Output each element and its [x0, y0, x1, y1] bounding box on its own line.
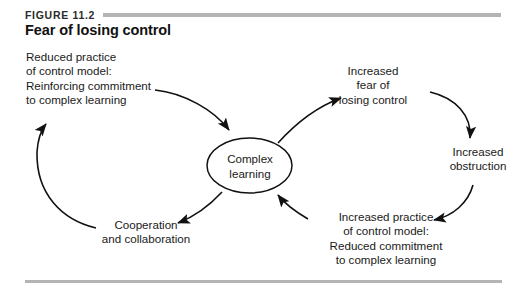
edge-increased-fear-to-increased-obstruction — [430, 92, 470, 138]
node-line: obstruction — [432, 159, 524, 173]
node-line: Reduced practice — [26, 50, 151, 64]
node-cooperation: Cooperation and collaboration — [72, 218, 220, 247]
node-line: losing control — [318, 93, 428, 107]
node-line: to complex learning — [26, 93, 151, 107]
edge-reduced-practice-to-complex-learning — [155, 90, 229, 130]
figure-number: FIGURE 11.2 — [25, 9, 95, 21]
node-reduced-practice: Reduced practice of control model: Reinf… — [26, 50, 151, 108]
figure-number-row: FIGURE 11.2 — [25, 7, 505, 23]
header-rule — [103, 13, 501, 17]
node-increased-practice: Increased practice of control model: Red… — [300, 210, 472, 268]
node-line: learning — [212, 167, 288, 182]
node-line: and collaboration — [72, 232, 220, 246]
node-complex-learning: Complex learning — [212, 152, 288, 181]
figure-container: FIGURE 11.2 Fear of losing control — [0, 0, 529, 294]
footer-rule — [25, 280, 502, 283]
node-line: Increased — [432, 145, 524, 159]
node-line: of control model: — [300, 224, 472, 238]
node-line: Reduced commitment — [300, 239, 472, 253]
node-line: Cooperation — [72, 218, 220, 232]
node-increased-obstruction: Increased obstruction — [432, 145, 524, 174]
node-line: to complex learning — [300, 253, 472, 267]
node-line: fear of — [318, 78, 428, 92]
causal-loop-diagram: Reduced practice of control model: Reinf… — [0, 44, 529, 282]
node-line: of control model: — [26, 64, 151, 78]
node-line: Increased — [318, 64, 428, 78]
node-increased-fear: Increased fear of losing control — [318, 64, 428, 107]
figure-header: FIGURE 11.2 Fear of losing control — [0, 0, 529, 44]
node-line: Complex — [212, 152, 288, 167]
figure-title: Fear of losing control — [25, 22, 171, 38]
edge-cooperation-to-reduced-practice — [37, 124, 96, 228]
node-line: Reinforcing commitment — [26, 79, 151, 93]
node-line: Increased practice — [300, 210, 472, 224]
